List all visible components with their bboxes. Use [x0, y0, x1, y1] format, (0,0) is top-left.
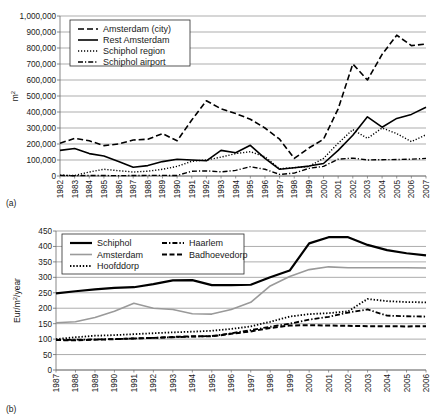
legend-label: Rest Amsterdam — [103, 35, 170, 45]
x-axis-tick-label: 1988 — [71, 374, 80, 393]
x-axis-tick-label: 1992 — [149, 374, 158, 393]
legend-label: Amsterdam — [97, 250, 143, 260]
x-axis-tick-label: 1988 — [144, 180, 153, 199]
y-axis-tick-label: 250 — [38, 289, 52, 298]
x-axis-tick-label: 1989 — [158, 180, 167, 199]
x-axis-tick-label: 1997 — [247, 374, 256, 393]
y-axis-title: Eur/m2/year — [12, 278, 22, 323]
x-axis-tick-label: 1994 — [232, 180, 241, 199]
y-axis-tick-label: 400,000 — [26, 108, 56, 117]
x-axis-tick-label: 2007 — [422, 180, 431, 199]
x-axis-tick-label: 2002 — [344, 374, 353, 393]
y-axis-tick-label: 50 — [43, 351, 53, 360]
legend-label: Schiphol — [97, 238, 132, 248]
x-axis-tick-label: 1993 — [217, 180, 226, 199]
y-axis-tick-label: 1,000,000 — [20, 12, 57, 21]
y-axis-tick-label: 150 — [38, 320, 52, 329]
x-axis-tick-label: 1996 — [261, 180, 270, 199]
x-axis-tick-label: 2000 — [320, 180, 329, 199]
y-axis-tick-label: 450 — [38, 227, 52, 236]
y-axis-tick-label: 0 — [47, 366, 52, 375]
x-axis-tick-label: 2005 — [393, 180, 402, 199]
x-axis-tick-label: 1986 — [115, 180, 124, 199]
y-axis-tick-label: 100 — [38, 335, 52, 344]
x-axis-tick-label: 2004 — [378, 180, 387, 199]
x-axis-tick-label: 2006 — [422, 374, 431, 393]
x-axis-tick-label: 2005 — [403, 374, 412, 393]
y-axis-title: m2 — [10, 90, 20, 101]
panel-label-a: (a) — [6, 198, 17, 208]
x-axis-tick-label: 1993 — [169, 374, 178, 393]
y-axis-tick-label: 300 — [38, 273, 52, 282]
legend-label: Schiphol region — [103, 46, 165, 56]
x-axis-tick-label: 1997 — [276, 180, 285, 199]
x-axis-tick-label: 1992 — [202, 180, 211, 199]
panel-label-b: (b) — [6, 404, 17, 414]
x-axis-tick-label: 1983 — [71, 180, 80, 199]
chart-panel-a: 0100,000200,000300,000400,000500,000600,… — [0, 0, 440, 210]
x-axis-tick-label: 1999 — [286, 374, 295, 393]
legend-label: Hoofddorp — [97, 261, 139, 271]
x-axis-tick-label: 2003 — [363, 180, 372, 199]
x-axis-tick-label: 1982 — [56, 180, 65, 199]
chart-panel-b: 0501001502002503003504004501987198819891… — [0, 210, 440, 417]
x-axis-tick-label: 2001 — [334, 180, 343, 199]
x-axis-tick-label: 1999 — [305, 180, 314, 199]
x-axis-tick-label: 1987 — [52, 374, 61, 393]
x-axis-tick-label: 1998 — [266, 374, 275, 393]
x-axis-tick-label: 1994 — [188, 374, 197, 393]
x-axis-tick-label: 1991 — [130, 374, 139, 393]
x-axis-tick-label: 1995 — [208, 374, 217, 393]
y-axis-tick-label: 200,000 — [26, 140, 56, 149]
legend-label: Badhoevedorp — [189, 250, 248, 260]
y-axis-tick-label: 300,000 — [26, 124, 56, 133]
x-axis-tick-label: 1990 — [173, 180, 182, 199]
y-axis-tick-label: 350 — [38, 258, 52, 267]
y-axis-tick-label: 500,000 — [26, 92, 56, 101]
x-axis-tick-label: 1987 — [129, 180, 138, 199]
x-axis-tick-label: 1995 — [246, 180, 255, 199]
x-axis-tick-label: 1985 — [100, 180, 109, 199]
legend-label: Schiphol airport — [103, 57, 166, 67]
y-axis-tick-label: 800,000 — [26, 44, 56, 53]
series-line-hoofddorp — [56, 299, 426, 339]
y-axis-tick-label: 700,000 — [26, 60, 56, 69]
y-axis-tick-label: 900,000 — [26, 28, 56, 37]
x-axis-tick-label: 1990 — [110, 374, 119, 393]
y-axis-tick-label: 600,000 — [26, 76, 56, 85]
series-line-badhoevedorp — [56, 325, 426, 340]
x-axis-tick-label: 2006 — [407, 180, 416, 199]
legend-label: Amsterdam (city) — [103, 24, 171, 34]
x-axis-tick-label: 1989 — [91, 374, 100, 393]
line-chart-a: 0100,000200,000300,000400,000500,000600,… — [0, 0, 440, 210]
x-axis-tick-label: 2001 — [325, 374, 334, 393]
legend-label: Haarlem — [189, 238, 223, 248]
line-chart-b: 0501001502002503003504004501987198819891… — [0, 210, 440, 417]
y-axis-tick-label: 400 — [38, 242, 52, 251]
y-axis-tick-label: 100,000 — [26, 156, 56, 165]
y-axis-tick-label: 200 — [38, 304, 52, 313]
series-line-amsterdam — [56, 267, 426, 323]
x-axis-tick-label: 1984 — [85, 180, 94, 199]
x-axis-tick-label: 2000 — [305, 374, 314, 393]
x-axis-tick-label: 2002 — [349, 180, 358, 199]
y-axis-tick-label: 0 — [51, 172, 56, 181]
x-axis-tick-label: 1996 — [227, 374, 236, 393]
x-axis-tick-label: 2004 — [383, 374, 392, 393]
x-axis-tick-label: 2003 — [364, 374, 373, 393]
x-axis-tick-label: 1991 — [188, 180, 197, 199]
x-axis-tick-label: 1998 — [290, 180, 299, 199]
